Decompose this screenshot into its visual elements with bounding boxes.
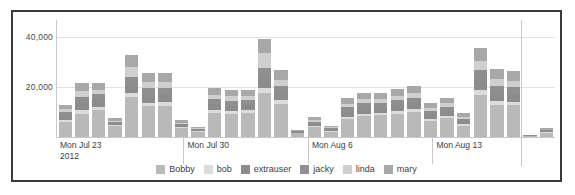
bar-segment-mary[interactable] bbox=[474, 48, 487, 61]
bar-stack[interactable] bbox=[440, 98, 453, 137]
bar-segment-mary[interactable] bbox=[142, 73, 155, 82]
bar-stack[interactable] bbox=[92, 83, 105, 137]
bar-segment-extrauser[interactable] bbox=[158, 94, 171, 101]
bar-segment-bobby[interactable] bbox=[225, 114, 238, 137]
bar-segment-bobby[interactable] bbox=[258, 93, 271, 137]
legend-item-jacky[interactable]: jacky bbox=[300, 164, 334, 174]
bar-stack[interactable] bbox=[507, 71, 520, 137]
bar-stack[interactable] bbox=[75, 83, 88, 137]
bar-stack[interactable] bbox=[424, 103, 437, 137]
bar-segment-bobby[interactable] bbox=[191, 132, 204, 137]
bar-segment-mary[interactable] bbox=[258, 39, 271, 53]
bar-segment-extrauser[interactable] bbox=[125, 85, 138, 93]
bar-segment-linda[interactable] bbox=[258, 53, 271, 68]
bar-stack[interactable] bbox=[457, 113, 470, 137]
bar-segment-jacky[interactable] bbox=[158, 88, 171, 95]
bar-segment-mary[interactable] bbox=[92, 83, 105, 90]
bar-segment-linda[interactable] bbox=[125, 67, 138, 77]
legend-item-bob[interactable]: bob bbox=[204, 164, 232, 174]
bar-stack[interactable] bbox=[125, 55, 138, 137]
bar-stack[interactable] bbox=[391, 89, 404, 137]
bar-stack[interactable] bbox=[225, 90, 238, 137]
bar-segment-bobby[interactable] bbox=[125, 97, 138, 137]
bar-segment-jacky[interactable] bbox=[274, 86, 287, 93]
bar-segment-extrauser[interactable] bbox=[142, 95, 155, 103]
bar-stack[interactable] bbox=[274, 70, 287, 137]
bar-segment-bobby[interactable] bbox=[324, 132, 337, 137]
bar-stack[interactable] bbox=[324, 126, 337, 137]
bar-stack[interactable] bbox=[357, 93, 370, 137]
bar-stack[interactable] bbox=[241, 90, 254, 138]
bar-segment-extrauser[interactable] bbox=[75, 103, 88, 110]
bar-segment-mary[interactable] bbox=[274, 70, 287, 79]
bar-stack[interactable] bbox=[191, 127, 204, 137]
chart-panel: 20,00040,000 Mon Jul 232012Mon Jul 30Mon… bbox=[11, 10, 562, 182]
bar-segment-jacky[interactable] bbox=[258, 68, 271, 77]
bar-segment-bobby[interactable] bbox=[357, 116, 370, 137]
bar-segment-linda[interactable] bbox=[474, 61, 487, 70]
bar-segment-bobby[interactable] bbox=[241, 113, 254, 137]
bar-segment-bobby[interactable] bbox=[440, 118, 453, 137]
bar-segment-bobby[interactable] bbox=[374, 115, 387, 137]
bar-segment-jacky[interactable] bbox=[142, 88, 155, 95]
bar-segment-extrauser[interactable] bbox=[274, 93, 287, 101]
bar-stack[interactable] bbox=[523, 135, 536, 137]
legend-item-bobby[interactable]: Bobby bbox=[156, 164, 195, 174]
bar-stack[interactable] bbox=[540, 128, 553, 137]
bar-segment-bobby[interactable] bbox=[59, 122, 72, 137]
bar-segment-bobby[interactable] bbox=[474, 95, 487, 137]
bar-stack[interactable] bbox=[108, 118, 121, 137]
bar-segment-jacky[interactable] bbox=[490, 86, 503, 93]
bar-segment-bobby[interactable] bbox=[108, 126, 121, 137]
bar-segment-mary[interactable] bbox=[490, 69, 503, 79]
bar-segment-bobby[interactable] bbox=[507, 105, 520, 137]
bar-stack[interactable] bbox=[474, 48, 487, 137]
bar-stack[interactable] bbox=[208, 88, 221, 137]
bar-stack[interactable] bbox=[374, 93, 387, 137]
bar-segment-bobby[interactable] bbox=[407, 112, 420, 137]
legend-item-linda[interactable]: linda bbox=[343, 164, 375, 174]
bar-segment-extrauser[interactable] bbox=[474, 80, 487, 90]
bar-segment-bobby[interactable] bbox=[457, 126, 470, 137]
bar-segment-bobby[interactable] bbox=[175, 128, 188, 137]
bar-segment-jacky[interactable] bbox=[125, 77, 138, 84]
bar-segment-bobby[interactable] bbox=[158, 106, 171, 137]
bar-segment-bobby[interactable] bbox=[540, 133, 553, 137]
bar-segment-mary[interactable] bbox=[158, 73, 171, 82]
bar-stack[interactable] bbox=[291, 130, 304, 137]
bar-stack[interactable] bbox=[175, 120, 188, 137]
bar-segment-bobby[interactable] bbox=[291, 133, 304, 137]
legend-item-extrauser[interactable]: extrauser bbox=[241, 164, 292, 174]
bar-segment-extrauser[interactable] bbox=[490, 93, 503, 101]
bar-segment-bobby[interactable] bbox=[391, 114, 404, 137]
bar-segment-mary[interactable] bbox=[125, 55, 138, 67]
bar-segment-extrauser[interactable] bbox=[258, 78, 271, 88]
bar-segment-bobby[interactable] bbox=[142, 106, 155, 137]
bar-segment-bobby[interactable] bbox=[274, 104, 287, 137]
x-axis-tick-label-year: 2012 bbox=[60, 151, 102, 162]
bar-stack[interactable] bbox=[341, 98, 354, 137]
bar-segment-bobby[interactable] bbox=[308, 127, 321, 137]
bar-segment-mary[interactable] bbox=[75, 83, 88, 91]
bar-segment-mary[interactable] bbox=[407, 86, 420, 93]
bar-stack[interactable] bbox=[59, 105, 72, 137]
bar-segment-bobby[interactable] bbox=[424, 121, 437, 137]
bar-segment-bobby[interactable] bbox=[75, 114, 88, 137]
bar-segment-jacky[interactable] bbox=[507, 87, 520, 94]
bar-stack[interactable] bbox=[308, 117, 321, 137]
bar-stack[interactable] bbox=[158, 73, 171, 137]
bar-segment-jacky[interactable] bbox=[474, 70, 487, 80]
bar-segment-mary[interactable] bbox=[391, 89, 404, 96]
bar-segment-bobby[interactable] bbox=[341, 119, 354, 137]
bar-stack[interactable] bbox=[407, 86, 420, 137]
bar-segment-bobby[interactable] bbox=[523, 136, 536, 137]
bar-segment-bobby[interactable] bbox=[490, 105, 503, 137]
bar-segment-bobby[interactable] bbox=[92, 110, 105, 137]
bar-stack[interactable] bbox=[490, 69, 503, 137]
bar-segment-extrauser[interactable] bbox=[507, 94, 520, 102]
bar-segment-bobby[interactable] bbox=[208, 113, 221, 137]
legend-item-mary[interactable]: mary bbox=[384, 164, 417, 174]
bar-stack[interactable] bbox=[142, 73, 155, 137]
bar-stack[interactable] bbox=[258, 39, 271, 137]
bar-segment-mary[interactable] bbox=[507, 71, 520, 81]
